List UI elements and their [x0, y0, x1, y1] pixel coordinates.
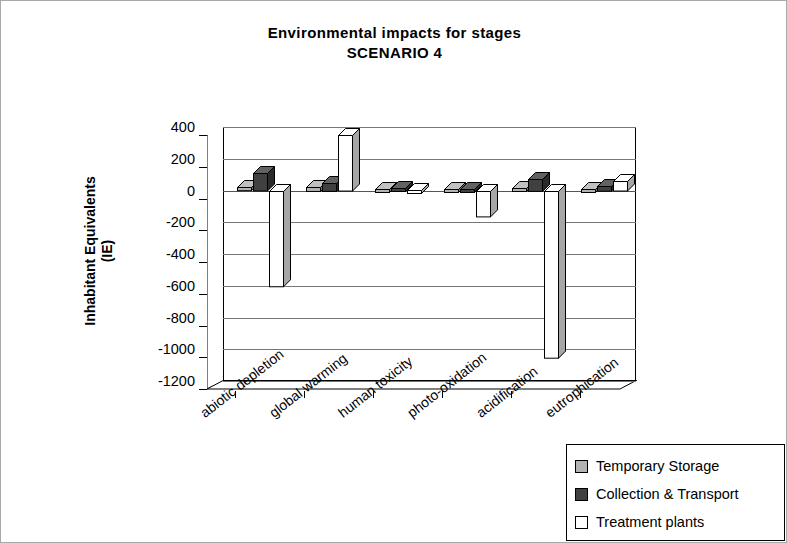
bar-3d-shape — [269, 184, 292, 288]
y-axis-tick-label: -200 — [135, 214, 195, 230]
bar-eutrophication-2 — [613, 174, 636, 193]
y-axis-tick-label: -600 — [135, 278, 195, 294]
bar-3d-shape — [338, 128, 361, 193]
bar-abiotic-depletion-2 — [269, 184, 292, 288]
gridline — [223, 127, 636, 128]
y-axis-title: Inhabitant Equivalents (IE) — [79, 121, 119, 381]
bar-acidification-2 — [544, 184, 567, 360]
legend-item: Collection & Transport — [575, 480, 778, 508]
legend-label: Treatment plants — [596, 514, 704, 530]
y-axis-tick-label: 200 — [135, 151, 195, 167]
chart-image: Environmental impacts for stages SCENARI… — [0, 0, 787, 543]
legend-label: Temporary Storage — [596, 458, 719, 474]
y-axis-tick-mark — [199, 230, 207, 231]
gridline — [223, 318, 636, 319]
bar-global-warming-2 — [338, 128, 361, 193]
bar-3d-shape — [544, 184, 567, 360]
y-axis-tick-label: -1000 — [135, 341, 195, 357]
y-axis-tick-mark — [199, 135, 207, 136]
y-axis-tick-mark — [199, 262, 207, 263]
y-axis-tick-mark — [199, 357, 207, 358]
legend-item: Temporary Storage — [575, 452, 778, 480]
legend-label: Collection & Transport — [596, 486, 739, 502]
y-axis-tick-label: -1200 — [135, 373, 195, 389]
legend-swatch-icon — [575, 516, 588, 529]
bar-3d-shape — [407, 183, 430, 195]
y-axis-tick-label: 400 — [135, 119, 195, 135]
y-axis-tick-label: -800 — [135, 310, 195, 326]
y-axis-title-line1: Inhabitant Equivalents — [82, 176, 98, 325]
y-axis-tick-label: 0 — [135, 183, 195, 199]
legend-item: Treatment plants — [575, 508, 778, 536]
gridline — [223, 349, 636, 350]
gridline — [223, 159, 636, 160]
chart-title-main: Environmental impacts for stages — [268, 24, 522, 41]
bar-photo-oxidation-2 — [476, 184, 499, 218]
plot-area — [223, 127, 636, 381]
plot-left-wall — [207, 135, 224, 389]
chart-title: Environmental impacts for stages SCENARI… — [1, 23, 787, 63]
bar-3d-shape — [613, 174, 636, 193]
legend-swatch-icon — [575, 460, 588, 473]
y-axis-tick-mark — [199, 294, 207, 295]
chart-subtitle: SCENARIO 4 — [1, 43, 787, 63]
chart-legend: Temporary StorageCollection & TransportT… — [566, 444, 785, 541]
y-axis-tick-mark — [199, 326, 207, 327]
bar-human-toxicity-2 — [407, 183, 430, 195]
y-axis-tick-label: -400 — [135, 246, 195, 262]
bar-3d-shape — [476, 184, 499, 218]
legend-swatch-icon — [575, 488, 588, 501]
y-axis-tick-mark — [199, 389, 207, 390]
y-axis-title-line2: (IE) — [99, 176, 116, 325]
y-axis-tick-mark — [199, 167, 207, 168]
y-axis-tick-mark — [199, 199, 207, 200]
